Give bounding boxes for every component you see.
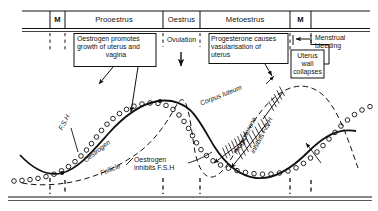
label-menstrual-bleeding: Menstrual bleeding	[315, 34, 377, 50]
label-line: inhibits F.S.H	[134, 164, 198, 172]
header-label: Metoestrus	[226, 15, 265, 24]
callout-line: Progesterone causes	[211, 35, 287, 43]
callout-progesterone-causes[interactable]: Progesterone causes vasularisation of ut…	[211, 35, 287, 59]
baseline-rules	[8, 197, 372, 201]
callout-uterus-wall-collapses[interactable]: Uterus wall collapses	[292, 52, 323, 76]
callout-line: Oestrogen promotes	[77, 35, 155, 43]
header-cell-menstruation-right[interactable]: M	[290, 15, 311, 24]
label-line: Menstrual	[315, 34, 377, 42]
label-line: bleeding	[315, 42, 377, 50]
callout-line: collapses	[292, 68, 323, 76]
diagram-canvas	[0, 0, 378, 211]
callout-line: vasularisation of	[211, 43, 287, 51]
callout-line: vagina	[77, 51, 155, 59]
callout-line: Uterus	[292, 52, 323, 60]
hatched-arrow-3	[263, 87, 285, 120]
callout-line: wall	[292, 60, 323, 68]
header-label: Prooestrus	[95, 15, 133, 24]
header-cell-menstruation-left[interactable]: M	[50, 15, 65, 24]
label-oestrogen-inhibits-fsh: Oestrogen inhibits F.S.H	[134, 156, 198, 172]
header-cell-metoestrus[interactable]: Metoestrus	[200, 15, 290, 24]
header-label: M	[297, 15, 303, 24]
label-line: Oestrogen	[134, 156, 198, 164]
header-cell-oestrus[interactable]: Oestrus	[163, 15, 200, 24]
header-cell-prooestrus[interactable]: Prooestrus	[65, 15, 163, 24]
callout-line: uterus	[211, 51, 287, 59]
callout-oestrogen-promotes[interactable]: Oestrogen promotes growth of uterus and …	[77, 35, 155, 59]
callout-ovulation[interactable]: Ovulation	[163, 36, 200, 44]
menstrual-cycle-diagram: M Prooestrus Oestrus Metoestrus M Oestro…	[0, 0, 378, 211]
header-label: Oestrus	[168, 15, 195, 24]
corpus-luteum-pointer	[266, 76, 274, 84]
callout-line: growth of uterus and	[77, 43, 155, 51]
callout-line: Ovulation	[167, 36, 196, 43]
bottom-phase-ticks	[50, 178, 311, 194]
fsh-label-pointer	[71, 128, 78, 152]
header-label: M	[54, 15, 60, 24]
